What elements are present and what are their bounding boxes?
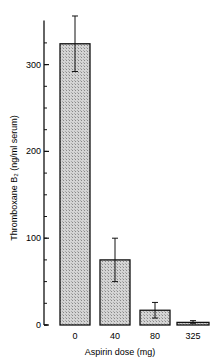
x-tick-label: 40 bbox=[110, 331, 120, 341]
x-tick-label: 0 bbox=[72, 331, 77, 341]
y-tick-label: 100 bbox=[26, 233, 41, 243]
x-tick-label: 80 bbox=[150, 331, 160, 341]
y-tick-label: 0 bbox=[36, 320, 41, 330]
bar-80: 80 bbox=[140, 302, 170, 341]
y-axis: 0100200300 bbox=[26, 21, 49, 330]
x-axis-label: Aspirin dose (mg) bbox=[85, 347, 156, 357]
y-tick-label: 200 bbox=[26, 146, 41, 156]
bar-chart: 0100200300 04080325 Thromboxane B₂ (ng/m… bbox=[0, 0, 221, 360]
y-tick-label: 300 bbox=[26, 60, 41, 70]
bar-40: 40 bbox=[100, 238, 130, 341]
x-tick-label: 325 bbox=[185, 331, 200, 341]
bar-0: 0 bbox=[60, 16, 90, 341]
bars: 04080325 bbox=[60, 16, 209, 341]
y-axis-label: Thromboxane B₂ (ng/ml serum) bbox=[9, 115, 19, 241]
bar-325: 325 bbox=[177, 321, 209, 341]
